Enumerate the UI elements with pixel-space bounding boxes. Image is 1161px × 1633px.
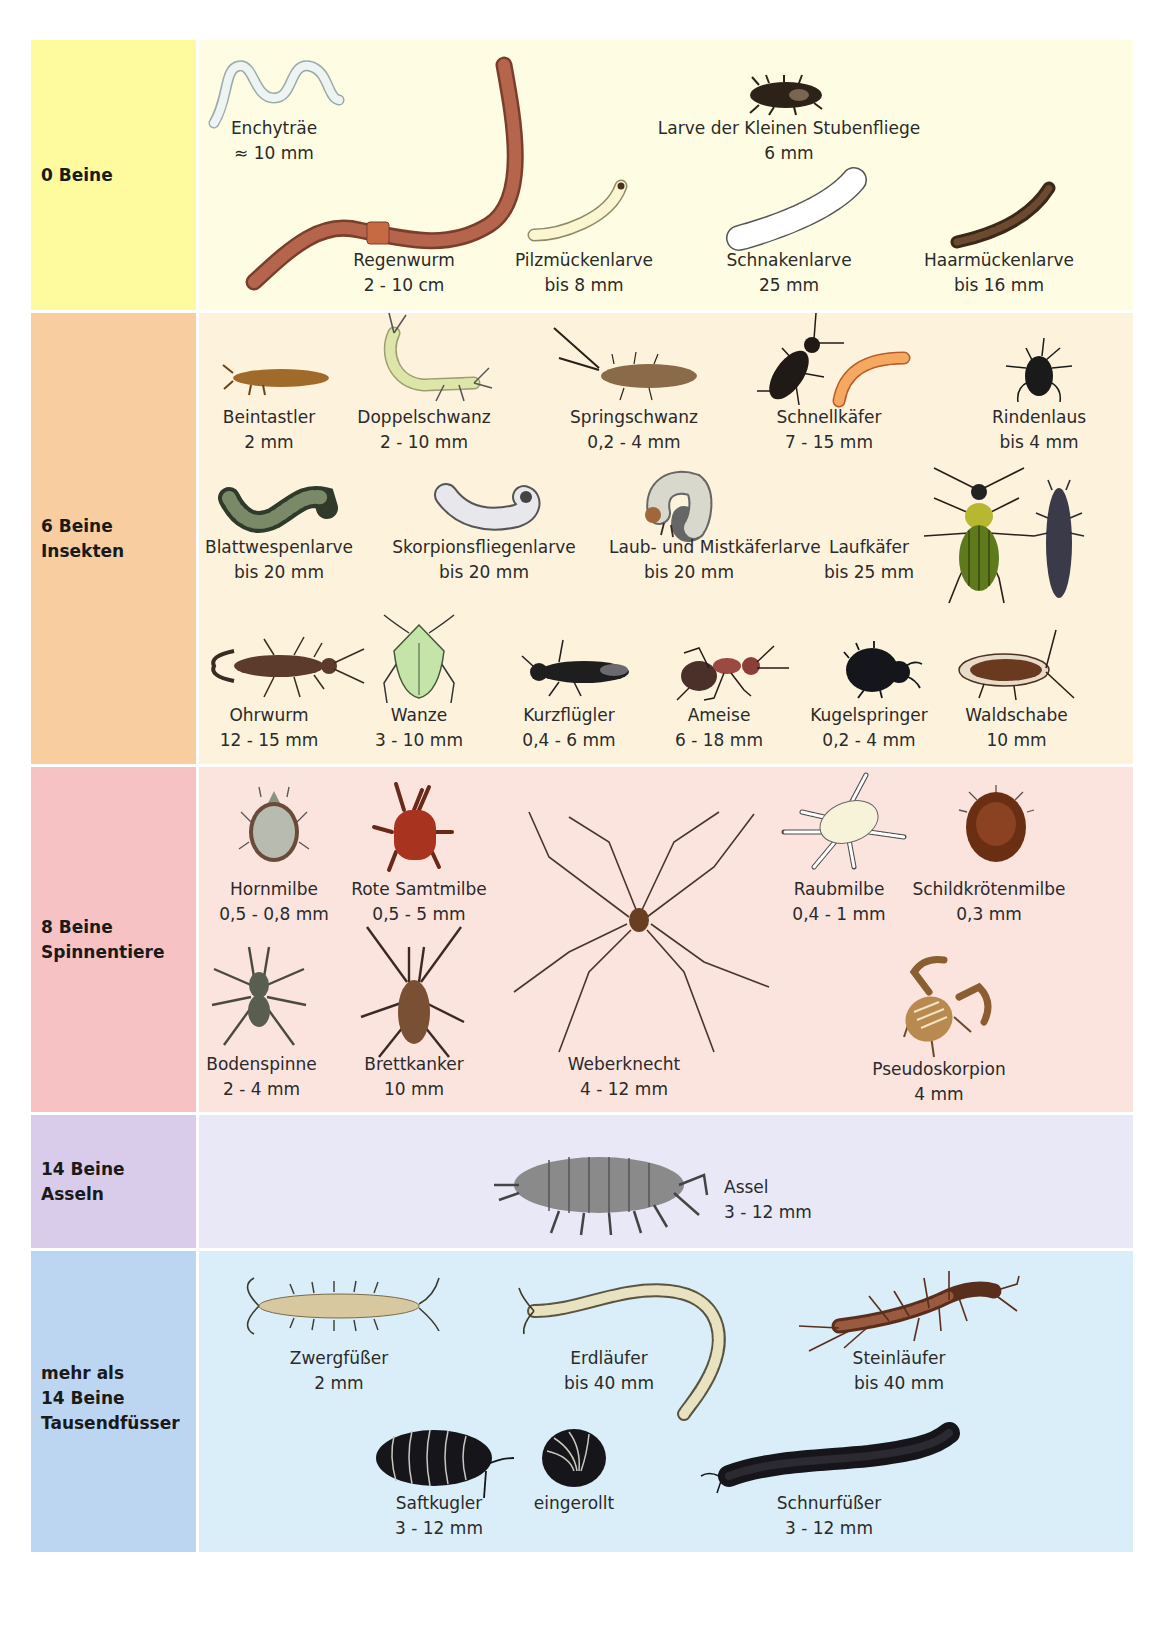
animal-eingerollt: eingerollt [509,1491,639,1516]
red-velvet-mite-illustration [374,782,454,872]
dipluran-illustration [374,313,494,403]
animal-larve-kleine-stubenfliege: Larve der Kleinen Stubenfliege 6 mm [634,116,944,166]
wolf-spider-illustration [209,947,309,1052]
harvestman-illustration [509,812,769,1052]
turtle-mite-illustration [959,782,1034,867]
animal-regenwurm: Regenwurm 2 - 10 cm [334,248,474,298]
section-label-text: 8 Beine Spinnentiere [41,915,164,965]
animal-brettkanker: Brettkanker 10 mm [349,1052,479,1102]
pill-millipede-illustration [374,1426,519,1501]
animal-schnurfuesser: Schnurfüßer 3 - 12 mm [759,1491,899,1541]
animal-saftkugler: Saftkugler 3 - 12 mm [374,1491,504,1541]
springtail-illustration [554,328,704,403]
rolled-pill-millipede-illustration [539,1426,609,1491]
crane-fly-larva-illustration [729,170,869,250]
section-label-text: 14 Beine Asseln [41,1157,125,1207]
brettkanker-illustration [359,927,469,1062]
section-content: Zwergfüßer 2 mm Erdläufer bis 40 mm Stei… [199,1251,1133,1552]
lesser-housefly-larva-illustration [744,75,829,115]
section-mehr-als-14-beine-tausendfuesser: mehr als 14 Beine Tausendfüsser Zwergfüß… [31,1251,1133,1552]
sawfly-larva-illustration [219,478,334,533]
section-14-beine-asseln: 14 Beine Asseln Assel 3 - 12 mm [31,1115,1133,1248]
section-content: Enchyträe ≈ 10 mm Regenwurm 2 - 10 cm Pi… [199,40,1133,310]
animal-kugelspringer: Kugelspringer 0,2 - 4 mm [804,703,934,753]
fungus-gnat-larva-illustration [529,180,629,240]
section-label: 0 Beine [31,40,196,310]
section-content: Hornmilbe 0,5 - 0,8 mm Rote Samtmilbe 0,… [199,767,1133,1112]
symphylan-illustration [234,1276,444,1336]
animal-rindenlaus: Rindenlaus bis 4 mm [974,405,1104,455]
animal-kurzfluegler: Kurzflügler 0,4 - 6 mm [514,703,624,753]
ant-illustration [669,638,794,703]
wood-cockroach-illustration [954,628,1079,703]
animal-schnellkaefer: Schnellkäfer 7 - 15 mm [759,405,899,455]
barklouse-illustration [1004,338,1074,403]
section-8-beine-spinnentiere: 8 Beine Spinnentiere Hornmilbe 0,5 - 0,8… [31,767,1133,1112]
animal-schnakenlarve: Schnakenlarve 25 mm [719,248,859,298]
animal-laufkaefer: Laufkäfer bis 25 mm [809,535,929,585]
animal-wanze: Wanze 3 - 10 mm [359,703,479,753]
woodlouse-illustration [489,1145,719,1240]
ground-beetle-illustration [924,468,1034,608]
animal-ohrwurm: Ohrwurm 12 - 15 mm [209,703,329,753]
march-fly-larva-illustration [949,180,1059,250]
animal-blattwespenlarve: Blattwespenlarve bis 20 mm [199,535,359,585]
oribatid-mite-illustration [239,787,309,867]
shield-bug-illustration [379,613,459,708]
animal-erdlaeufer: Erdläufer bis 40 mm [539,1346,679,1396]
scarab-grub-illustration [639,473,709,538]
globular-springtail-illustration [834,638,924,698]
scorpionfly-larva-illustration [436,481,536,536]
animal-hornmilbe: Hornmilbe 0,5 - 0,8 mm [199,877,349,927]
proturan-illustration [221,361,331,396]
animal-haarmueckenlarve: Haarmückenlarve bis 16 mm [914,248,1084,298]
millipede-illustration [699,1421,959,1496]
section-0-beine: 0 Beine Enchyträe ≈ 10 mm Regenwurm 2 - … [31,40,1133,310]
click-beetle-and-wireworm-illustration [754,313,924,408]
section-label: 14 Beine Asseln [31,1115,196,1248]
predatory-mite-illustration [784,772,909,872]
section-label-text: 6 Beine Insekten [41,514,124,564]
stone-centipede-illustration [799,1266,1024,1356]
section-label: 8 Beine Spinnentiere [31,767,196,1112]
animal-beintastler: Beintastler 2 mm [209,405,329,455]
pseudoscorpion-illustration [889,957,999,1067]
animal-steinlaeufer: Steinläufer bis 40 mm [829,1346,969,1396]
ground-beetle-larva-illustration [1034,478,1084,608]
animal-bodenspinne: Bodenspinne 2 - 4 mm [199,1052,324,1102]
animal-rote-samtmilbe: Rote Samtmilbe 0,5 - 5 mm [339,877,499,927]
animal-zwergfuesser: Zwergfüßer 2 mm [269,1346,409,1396]
animal-waldschabe: Waldschabe 10 mm [954,703,1079,753]
animal-raubmilbe: Raubmilbe 0,4 - 1 mm [774,877,904,927]
section-6-beine-insekten: 6 Beine Insekten Beintastler 2 mm Doppel… [31,313,1133,764]
section-label-text: mehr als 14 Beine Tausendfüsser [41,1361,180,1436]
animal-laub-und-mistkaeferlarve: Laub- und Mistkäferlarve bis 20 mm [609,535,769,585]
rove-beetle-illustration [519,638,634,698]
animal-weberknecht: Weberknecht 4 - 12 mm [554,1052,694,1102]
earwig-illustration [204,631,369,701]
animal-schildkroetenmilbe: Schildkrötenmilbe 0,3 mm [899,877,1079,927]
animal-pseudoskorpion: Pseudoskorpion 4 mm [859,1057,1019,1107]
section-content: Assel 3 - 12 mm [199,1115,1133,1248]
section-label: 6 Beine Insekten [31,313,196,764]
animal-skorpionsfliegenlarve: Skorpionsfliegenlarve bis 20 mm [384,535,584,585]
animal-ameise: Ameise 6 - 18 mm [664,703,774,753]
section-label-text: 0 Beine [41,163,113,188]
section-label: mehr als 14 Beine Tausendfüsser [31,1251,196,1552]
animal-springschwanz: Springschwanz 0,2 - 4 mm [554,405,714,455]
animal-pilzmueckenlarve: Pilzmückenlarve bis 8 mm [504,248,664,298]
section-content: Beintastler 2 mm Doppelschwanz 2 - 10 mm… [199,313,1133,764]
animal-assel: Assel 3 - 12 mm [724,1175,824,1225]
animal-doppelschwanz: Doppelschwanz 2 - 10 mm [349,405,499,455]
